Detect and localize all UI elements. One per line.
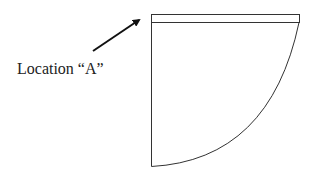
location-a-label: Location “A” (17, 60, 104, 78)
diagram-canvas (0, 0, 314, 178)
arrow-icon (93, 20, 139, 51)
quarter-sector-outline (152, 23, 300, 167)
top-band (152, 15, 300, 23)
